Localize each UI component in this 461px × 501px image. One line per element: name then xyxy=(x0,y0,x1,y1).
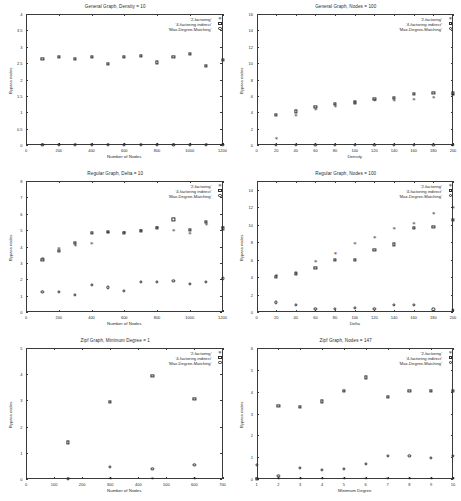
y-tick-mark-right xyxy=(451,414,453,415)
x-tick-mark xyxy=(124,310,125,312)
y-tick-mark xyxy=(257,312,259,313)
y-tick-mark-right xyxy=(220,96,222,97)
y-tick-mark-right xyxy=(220,296,222,297)
legend-marker-star-filled xyxy=(449,17,452,20)
data-point-star-filled xyxy=(353,242,356,245)
legend-item: 'Max-Degree-Matching' xyxy=(26,361,223,366)
y-tick-label: 4 xyxy=(231,275,254,280)
y-tick-mark xyxy=(257,457,259,458)
data-point-square-open xyxy=(188,229,191,232)
y-tick-mark xyxy=(26,112,28,113)
y-tick-label: 14 xyxy=(231,187,254,192)
y-tick-label: 0 xyxy=(231,310,254,315)
y-tick-mark xyxy=(26,453,28,454)
y-tick-label: 0 xyxy=(0,143,23,148)
x-tick-label: 140 xyxy=(391,315,398,320)
x-tick-mark-top xyxy=(453,14,454,16)
y-tick-mark xyxy=(26,14,28,15)
legend-marker-star-filled xyxy=(218,184,221,187)
plot-area xyxy=(26,181,223,312)
data-point-star-filled xyxy=(109,477,112,480)
y-tick-mark xyxy=(257,260,259,261)
data-point-square-open xyxy=(139,54,142,57)
y-tick-mark xyxy=(26,427,28,428)
data-point-square-open xyxy=(392,96,395,99)
data-point-square-open xyxy=(90,231,93,234)
x-tick-label: 80 xyxy=(333,315,337,320)
y-tick-mark-right xyxy=(451,242,453,243)
y-tick-mark-right xyxy=(220,80,222,81)
x-tick-mark-top xyxy=(223,181,224,183)
y-tick-mark xyxy=(26,247,28,248)
data-point-square-open xyxy=(364,376,367,379)
legend-label: 'Max-Degree-Matching' xyxy=(168,27,211,32)
y-tick-mark xyxy=(257,112,259,113)
data-point-square-open xyxy=(342,389,345,392)
y-tick-mark-right xyxy=(220,112,222,113)
x-axis-label: Number of Nodes xyxy=(26,154,223,159)
y-tick-mark-right xyxy=(220,47,222,48)
y-tick-mark-right xyxy=(451,225,453,226)
y-tick-mark-right xyxy=(451,370,453,371)
y-tick-mark xyxy=(257,47,259,48)
legend-marker-star-filled xyxy=(218,351,221,354)
data-point-circle-open xyxy=(451,454,454,457)
data-point-circle-open xyxy=(334,143,337,146)
x-tick-label: 60 xyxy=(313,315,317,320)
data-point-square-open xyxy=(275,275,278,278)
y-tick-mark xyxy=(257,129,259,130)
x-tick-label: 180 xyxy=(430,148,437,153)
x-tick-label: 800 xyxy=(154,148,161,153)
figure-grid: General Graph, Density = 100200400600800… xyxy=(0,0,461,501)
x-tick-label: 300 xyxy=(107,482,114,487)
x-tick-mark xyxy=(82,477,83,479)
x-tick-label: 180 xyxy=(430,315,437,320)
x-axis-label: Number of Nodes xyxy=(26,321,223,326)
y-tick-label: 5 xyxy=(0,346,23,351)
legend-marker-circle-open xyxy=(449,194,452,197)
x-tick-mark xyxy=(315,310,316,312)
y-tick-label: 8 xyxy=(0,179,23,184)
data-point-circle-open xyxy=(314,143,317,146)
data-point-star-filled xyxy=(429,477,432,480)
data-point-star-filled xyxy=(392,99,395,102)
data-point-square-open xyxy=(155,226,158,229)
y-tick-mark-right xyxy=(451,277,453,278)
data-point-square-open xyxy=(221,58,224,61)
data-point-square-open xyxy=(205,220,208,223)
x-tick-label: 600 xyxy=(191,482,198,487)
x-tick-label: 200 xyxy=(79,482,86,487)
y-tick-label: 2 xyxy=(231,126,254,131)
x-tick-label: 20 xyxy=(274,148,278,153)
y-tick-label: 0 xyxy=(231,477,254,482)
y-tick-mark xyxy=(257,348,259,349)
x-tick-label: 1000 xyxy=(185,148,194,153)
data-point-square-open xyxy=(67,441,70,444)
chart-panel-6: Zipf Graph, Nodes = 14712345678910012345… xyxy=(231,334,461,501)
data-point-star-filled xyxy=(412,222,415,225)
x-tick-label: 4 xyxy=(321,482,323,487)
y-tick-mark-right xyxy=(220,479,222,480)
data-point-circle-open xyxy=(373,143,376,146)
y-tick-mark-right xyxy=(220,400,222,401)
y-tick-mark xyxy=(26,214,28,215)
data-point-circle-open xyxy=(275,143,278,146)
x-tick-mark-top xyxy=(453,348,454,350)
legend-label: 'Max-Degree-Matching' xyxy=(168,361,211,366)
y-tick-mark-right xyxy=(451,47,453,48)
x-tick-mark xyxy=(355,310,356,312)
y-tick-mark xyxy=(257,277,259,278)
data-point-square-open xyxy=(275,113,278,116)
x-tick-mark-top xyxy=(223,348,224,350)
x-tick-label: 8 xyxy=(408,482,410,487)
x-tick-label: 9 xyxy=(430,482,432,487)
y-tick-mark-right xyxy=(451,14,453,15)
data-point-star-filled xyxy=(364,477,367,480)
chart-panel-3: Regular Graph, Delta = 10020040060080010… xyxy=(0,167,231,334)
y-tick-label: 3 xyxy=(0,260,23,265)
data-point-star-filled xyxy=(392,227,395,230)
chart-legend: '2-factoring''4-factoring indirect''Max-… xyxy=(257,351,454,367)
y-tick-mark xyxy=(26,263,28,264)
y-tick-mark-right xyxy=(220,427,222,428)
data-point-square-open xyxy=(255,477,258,480)
